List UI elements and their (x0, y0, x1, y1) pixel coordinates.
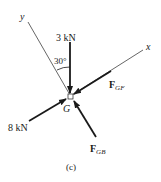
force-8kn-label: 8 kN (8, 122, 28, 133)
free-body-diagram: y x 3 kN 30° FGF G 8 kN FGB (c) (0, 0, 161, 182)
y-axis-label: y (19, 11, 25, 22)
angle-label: 30° (54, 56, 67, 66)
angle-arc (57, 67, 70, 70)
force-fgb-label: FGB (90, 143, 106, 156)
point-g-marker (68, 94, 73, 99)
figure-caption: (c) (66, 162, 76, 172)
force-3kn-label: 3 kN (56, 32, 76, 43)
force-fgf-label: FGF (109, 79, 125, 92)
x-axis-label: x (145, 41, 151, 52)
force-8kn-arrow (29, 99, 66, 121)
point-g-label: G (63, 103, 70, 114)
force-fgb-arrow (74, 101, 96, 137)
force-fgf-arrow (74, 71, 111, 94)
